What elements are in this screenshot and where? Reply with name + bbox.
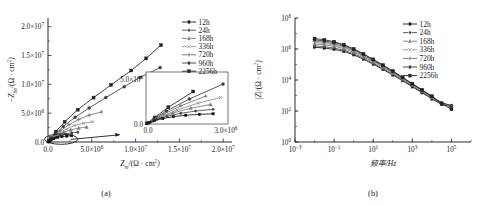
svg-text:1.5×107: 1.5×107 [168, 144, 191, 154]
svg-text:10−3: 10−3 [289, 144, 302, 154]
svg-text:0.0: 0.0 [44, 146, 53, 154]
svg-text:3.0×106: 3.0×106 [215, 125, 238, 135]
panel-a-svg: 0.05.0×1061.0×1071.5×1072.0×1070.05.0×10… [0, 0, 243, 205]
panel-a-legend: 12h24h168h336h720h960h2256h [182, 18, 217, 76]
svg-text:102: 102 [281, 106, 291, 116]
svg-text:5.0×106: 5.0×106 [21, 108, 44, 118]
svg-text:105: 105 [447, 144, 457, 154]
svg-text:101: 101 [368, 144, 378, 154]
panel-a: 0.05.0×1061.0×1071.5×1072.0×1070.05.0×10… [0, 0, 243, 205]
svg-text:0.0: 0.0 [134, 121, 143, 129]
legend-label-2256h: 2256h [420, 71, 439, 80]
figure-root: 0.05.0×1061.0×1071.5×1072.0×1070.05.0×10… [0, 0, 486, 205]
svg-text:2.0×107: 2.0×107 [21, 21, 44, 31]
svg-text:0.0: 0.0 [144, 127, 153, 135]
panel-a-x-axis-title: Zre/(Ω · cm2) [120, 158, 160, 170]
svg-text:5.0×106: 5.0×106 [120, 74, 143, 84]
svg-text:106: 106 [281, 44, 291, 54]
panel-b: 10−310−1101103105100102104106108 12h24h1… [243, 0, 486, 205]
svg-text:1.0×107: 1.0×107 [21, 79, 44, 89]
panel-b-axes: 10−310−1101103105100102104106108 [281, 13, 471, 154]
panel-a-inset: 0.03.0×1060.05.0×106 [120, 72, 238, 135]
panel-a-caption: (a) [101, 189, 111, 198]
svg-text:108: 108 [281, 13, 291, 23]
svg-text:10−1: 10−1 [328, 144, 341, 154]
legend-label-2256h: 2256h [199, 67, 218, 76]
panel-b-svg: 10−310−1101103105100102104106108 12h24h1… [243, 0, 486, 205]
svg-text:104: 104 [281, 75, 291, 85]
panel-b-caption: (b) [368, 189, 378, 198]
svg-text:5.0×106: 5.0×106 [80, 144, 103, 154]
svg-text:2.0×107: 2.0×107 [212, 144, 235, 154]
svg-text:103: 103 [407, 144, 417, 154]
panel-b-y-axis-title: |Z|/(Ω · cm2) [253, 60, 263, 100]
panel-b-legend: 12h24h168h336h720h960h2256h [403, 20, 438, 81]
svg-text:1.0×107: 1.0×107 [124, 144, 147, 154]
panel-a-y-axis-title: −Zim/(Ω · cm2) [6, 57, 18, 103]
svg-text:0.0: 0.0 [35, 139, 44, 147]
svg-text:1.5×107: 1.5×107 [21, 50, 44, 60]
panel-b-x-axis-title: 频率/Hz [370, 159, 397, 168]
